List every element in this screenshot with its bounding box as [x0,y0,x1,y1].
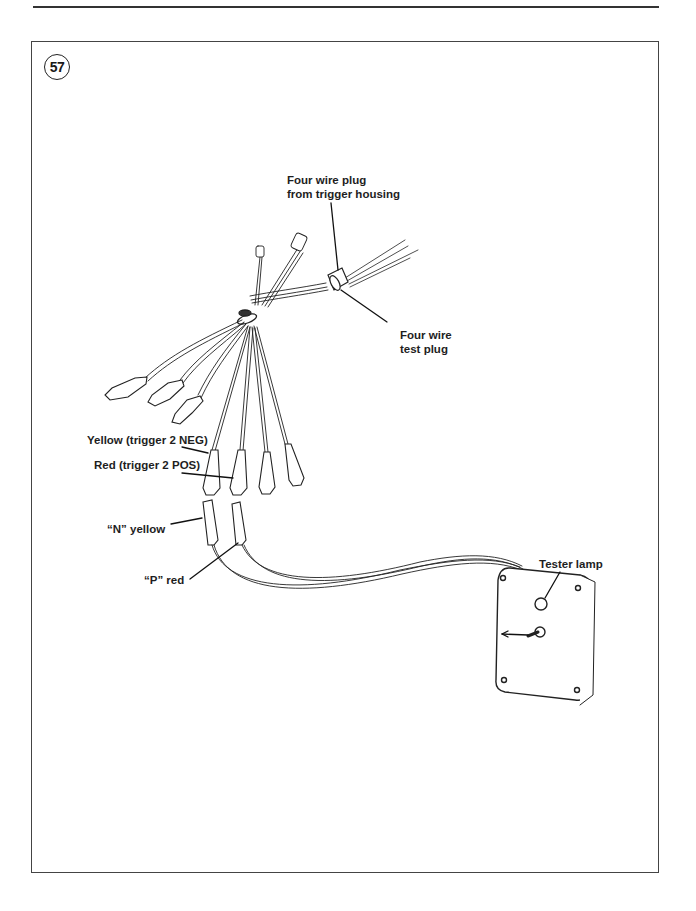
label-yellow-trigger: Yellow (trigger 2 NEG) [87,433,208,447]
four-wire-plug [328,268,348,292]
test-leads [212,545,523,588]
cable-tie [236,310,258,326]
test-clips [203,500,246,545]
main-cable [250,283,328,303]
left-connectors [105,320,248,424]
label-p-red: “P” red [144,573,184,587]
top-connectors [255,232,308,307]
label-tester-lamp: Tester lamp [539,557,603,571]
lower-connectors [203,326,304,495]
label-four-wire-plug: Four wire plug from trigger housing [287,173,400,201]
wiring-harness-illustration [0,0,696,911]
loose-wires [345,240,418,287]
tester-box [496,568,595,705]
label-red-trigger: Red (trigger 2 POS) [94,458,200,472]
label-n-yellow: “N” yellow [107,522,165,536]
label-four-wire-test-plug: Four wire test plug [400,328,452,356]
